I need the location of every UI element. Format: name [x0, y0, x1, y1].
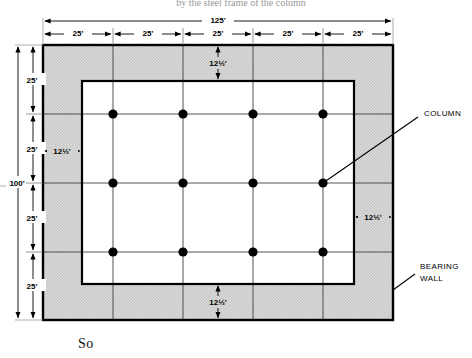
- callout-bearing-wall: BEARING WALL: [393, 262, 459, 290]
- column-dot: [108, 178, 117, 187]
- bay-height-label-1: 25': [27, 76, 38, 85]
- inner-floor-area: [82, 81, 354, 284]
- wall-offset-left-label: 12½': [53, 147, 71, 156]
- callout-column-label: COLUMN: [424, 109, 461, 118]
- floor-plan-diagram: 125' 25' 25' 25' 25' 25' 100' 25: [0, 0, 472, 358]
- wall-offset-right-label: 12½': [364, 213, 382, 222]
- column-dot: [248, 109, 257, 118]
- column-dot: [108, 247, 117, 256]
- column-dot: [248, 178, 257, 187]
- bay-height-label-4: 25': [27, 282, 38, 291]
- bay-width-label-4: 25': [283, 29, 294, 38]
- column-dot: [178, 109, 187, 118]
- column-dot: [318, 247, 327, 256]
- column-dot: [248, 247, 257, 256]
- bay-width-label-2: 25': [143, 29, 154, 38]
- callout-bearing-wall-label-line2: WALL: [420, 274, 443, 283]
- bay-width-label-5: 25': [353, 29, 364, 38]
- callout-bearing-wall-label-line1: BEARING: [420, 262, 459, 271]
- wall-offset-right-dimension: 12½': [356, 211, 391, 223]
- wall-offset-left-dimension: 12½': [45, 145, 80, 157]
- overall-height-dimension: 100': [2, 45, 43, 320]
- column-dot: [178, 247, 187, 256]
- bay-width-label-1: 25': [73, 29, 84, 38]
- bottom-caption-text: So: [78, 336, 94, 352]
- bay-width-dimensions: 25' 25' 25' 25' 25': [45, 27, 391, 45]
- overall-width-label: 125': [210, 16, 225, 25]
- overall-height-label: 100': [9, 179, 24, 188]
- bay-width-label-3: 25': [213, 29, 224, 38]
- column-dot: [318, 109, 327, 118]
- wall-offset-top-label: 12½': [209, 59, 227, 68]
- wall-offset-bottom-label: 12½': [209, 298, 227, 307]
- bay-height-label-2: 25': [27, 145, 38, 154]
- callout-bearing-wall-leader: [393, 274, 415, 290]
- bay-height-label-3: 25': [27, 214, 38, 223]
- column-dot: [108, 109, 117, 118]
- column-dot: [178, 178, 187, 187]
